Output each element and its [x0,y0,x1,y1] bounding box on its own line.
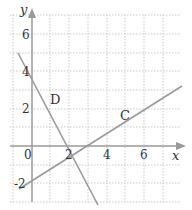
y-axis-label: y [19,2,28,17]
graph: y x 0 2 4 6 6 4 2 -2 D C [0,0,192,210]
tick-y-2: 2 [22,102,30,116]
tick-x-4: 4 [103,148,111,162]
y-axis-arrow-icon [28,8,36,18]
tick-x-2: 2 [65,148,73,162]
x-axis-label: x [172,148,180,163]
tick-y-neg2: -2 [14,177,26,191]
tick-x-6: 6 [140,148,148,162]
line-d-label: D [50,92,60,107]
line-c-label: C [120,108,130,123]
tick-origin: 0 [24,148,32,162]
tick-y-4: 4 [22,65,30,79]
tick-y-6: 6 [22,28,30,42]
grid [10,15,180,202]
